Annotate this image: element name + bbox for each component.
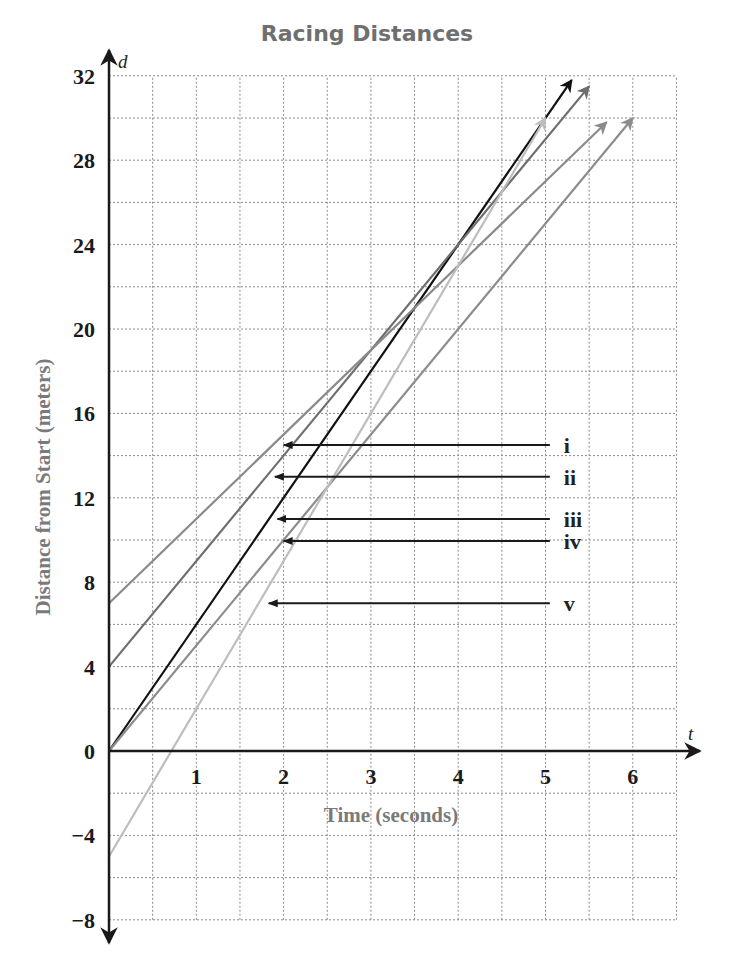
chart-title: Racing Distances bbox=[261, 21, 473, 46]
callout-label-v: v bbox=[564, 591, 575, 616]
grid bbox=[109, 76, 676, 920]
callout-label-ii: ii bbox=[564, 465, 576, 490]
y-tick-label: 28 bbox=[73, 148, 95, 173]
y-tick-label: 4 bbox=[84, 655, 95, 680]
y-variable-label: d bbox=[118, 51, 128, 72]
line-gray-b bbox=[109, 122, 607, 603]
y-tick-label: 24 bbox=[73, 233, 95, 258]
x-axis-label: Time (seconds) bbox=[324, 803, 458, 827]
y-tick-label: 8 bbox=[84, 570, 95, 595]
callout-labels: iiiiiiivv bbox=[269, 433, 582, 616]
series-lines bbox=[109, 80, 633, 856]
y-tick-label: 16 bbox=[73, 401, 95, 426]
x-variable-label: t bbox=[688, 723, 694, 744]
x-tick-label: 2 bbox=[278, 764, 289, 789]
x-tick-label: 5 bbox=[540, 764, 551, 789]
y-tick-label: 12 bbox=[73, 486, 95, 511]
line-light bbox=[109, 118, 546, 857]
x-tick-label: 4 bbox=[453, 764, 464, 789]
callout-label-iv: iv bbox=[564, 529, 581, 554]
y-tick-label: 20 bbox=[73, 317, 95, 342]
y-tick-label: 0 bbox=[84, 739, 95, 764]
line-gray-a bbox=[109, 86, 589, 666]
y-axis-label: Distance from Start (meters) bbox=[31, 359, 55, 616]
racing-distances-chart: Racing Distances 123456 −8−4048121620242… bbox=[0, 0, 734, 979]
callout-label-i: i bbox=[564, 433, 570, 458]
y-tick-label: 32 bbox=[73, 64, 95, 89]
x-tick-label: 1 bbox=[191, 764, 202, 789]
x-tick-label: 6 bbox=[627, 764, 638, 789]
x-tick-label: 3 bbox=[365, 764, 376, 789]
y-tick-label: −4 bbox=[71, 823, 95, 848]
y-tick-labels: −8−4048121620242832 bbox=[71, 64, 95, 933]
line-gray-c bbox=[109, 118, 633, 751]
y-tick-label: −8 bbox=[71, 908, 95, 933]
